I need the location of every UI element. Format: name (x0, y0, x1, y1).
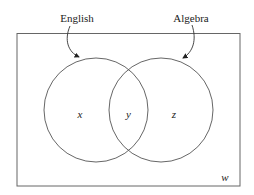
english-label: English (60, 12, 94, 24)
universe-region-label: w (221, 171, 229, 183)
english-arrow-icon (67, 26, 79, 57)
algebra-label: Algebra (173, 12, 209, 24)
english-set-circle (44, 58, 148, 162)
algebra-only-region-label: z (171, 108, 177, 120)
algebra-arrow-icon (183, 25, 194, 58)
venn-diagram: English Algebra x y z w (0, 0, 254, 195)
intersection-region-label: y (125, 108, 131, 120)
english-only-region-label: x (77, 108, 83, 120)
algebra-set-circle (109, 58, 213, 162)
